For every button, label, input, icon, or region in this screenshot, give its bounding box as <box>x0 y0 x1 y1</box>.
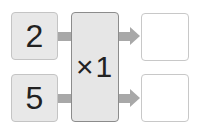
function-machine: ×1 <box>71 12 119 122</box>
operation-label: ×1 <box>76 50 114 84</box>
input-box-1: 2 <box>11 12 58 60</box>
output-box-2 <box>141 74 189 122</box>
connector-2 <box>58 94 72 103</box>
input-value-2: 5 <box>26 80 44 117</box>
input-value-1: 2 <box>26 18 44 55</box>
arrow-right-icon <box>130 89 140 107</box>
input-box-2: 5 <box>11 74 58 122</box>
output-box-1 <box>141 13 189 61</box>
connector-1 <box>58 32 72 41</box>
arrow-right-icon <box>130 27 140 45</box>
